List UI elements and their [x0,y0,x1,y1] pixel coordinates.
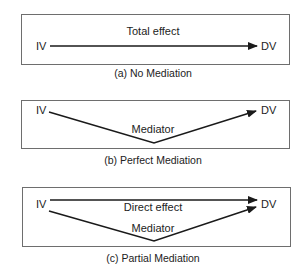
caption-no-mediation: (a) No Mediation [114,67,192,79]
direct-effect-label: Direct effect [124,201,183,213]
panel-a-frame [22,15,290,65]
panel-partial-mediation: IV DV Direct effect Mediator (c) Partial… [23,188,291,265]
caption-partial-mediation: (c) Partial Mediation [106,252,200,264]
iv-label: IV [36,104,47,116]
total-effect-label: Total effect [127,25,180,37]
panel-no-mediation: IV DV Total effect (a) No Mediation [22,15,290,80]
iv-label: IV [36,198,47,210]
mediator-label: Mediator [132,222,175,234]
caption-perfect-mediation: (b) Perfect Mediation [104,154,202,166]
iv-label: IV [36,40,47,52]
panel-perfect-mediation: IV DV Mediator (b) Perfect Mediation [22,101,290,167]
dv-label: DV [261,40,277,52]
dv-label: DV [261,104,277,116]
mediator-label: Mediator [132,123,175,135]
panel-c-frame [23,188,291,247]
mediation-diagram: IV DV Total effect (a) No Mediation IV D… [0,0,307,276]
dv-label: DV [261,198,277,210]
